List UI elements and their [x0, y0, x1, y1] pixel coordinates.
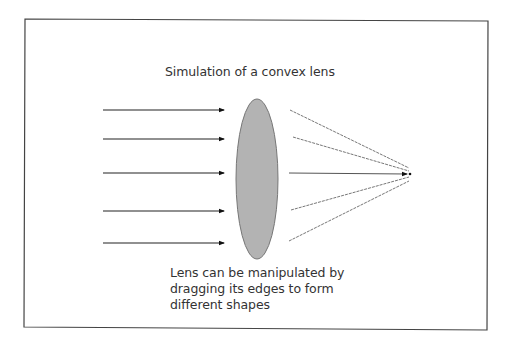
diagram-caption: Lens can be manipulated by dragging its …: [170, 265, 340, 313]
caption-line: different shapes: [170, 297, 340, 313]
caption-line: dragging its edges to form: [170, 281, 340, 297]
diagram-title: Simulation of a convex lens: [165, 64, 335, 79]
convex-lens[interactable]: [236, 99, 278, 259]
focal-point: [409, 173, 412, 176]
caption-line: Lens can be manipulated by: [170, 265, 340, 281]
